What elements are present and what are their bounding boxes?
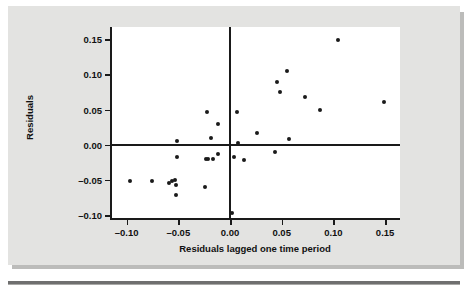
- y-tick-label: 0.00: [62, 139, 102, 150]
- y-tick-label: –0.05: [62, 174, 102, 185]
- scatter-point: [336, 38, 340, 42]
- x-axis-spine: [110, 218, 400, 220]
- scatter-point: [278, 90, 282, 94]
- y-tick-label: –0.10: [62, 210, 102, 221]
- x-tick-mark: [282, 220, 284, 225]
- scatter-point: [205, 110, 209, 114]
- scatter-point: [175, 139, 179, 143]
- x-tick-mark: [127, 220, 129, 225]
- scatter-plot-area: [110, 27, 400, 219]
- scatter-point: [232, 155, 236, 159]
- x-tick-label: –0.05: [166, 227, 190, 238]
- y-tick-mark: [105, 74, 110, 76]
- y-axis-spine: [110, 27, 112, 220]
- footer-rule-highlight: [8, 284, 460, 285]
- y-tick-label: 0.10: [62, 69, 102, 80]
- scatter-point: [216, 152, 220, 156]
- y-tick-label: 0.05: [62, 104, 102, 115]
- y-tick-mark: [105, 145, 110, 147]
- x-tick-label: 0.10: [324, 227, 343, 238]
- x-tick-mark: [385, 220, 387, 225]
- scatter-point: [303, 95, 307, 99]
- scatter-point: [174, 183, 178, 187]
- x-tick-label: 0.15: [376, 227, 395, 238]
- x-tick-mark: [178, 220, 180, 225]
- x-tick-label: –0.10: [115, 227, 139, 238]
- x-tick-label: 0.05: [272, 227, 291, 238]
- scatter-point: [382, 100, 386, 104]
- y-axis-label: Residuals: [24, 58, 35, 178]
- y-tick-mark: [105, 39, 110, 41]
- scatter-point: [211, 157, 215, 161]
- scatter-point: [206, 157, 210, 161]
- x-tick-label: 0.00: [221, 227, 240, 238]
- y-tick-label: 0.15: [62, 34, 102, 45]
- y-tick-mark: [105, 180, 110, 182]
- zero-horizontal-reference-line: [110, 144, 400, 146]
- scatter-point: [203, 185, 207, 189]
- y-tick-mark: [105, 110, 110, 112]
- zero-vertical-reference-line: [229, 27, 231, 220]
- scatter-point: [242, 158, 246, 162]
- scatter-point: [216, 122, 220, 126]
- scatter-point: [209, 136, 213, 140]
- scatter-point: [255, 131, 259, 135]
- figure-container: –0.10–0.050.000.050.100.15 0.150.100.050…: [0, 0, 474, 293]
- panel-shadow-bottom: [12, 265, 464, 269]
- x-axis-label: Residuals lagged one time period: [110, 243, 400, 254]
- scatter-point: [150, 179, 154, 183]
- x-tick-mark: [333, 220, 335, 225]
- scatter-point: [273, 150, 277, 154]
- scatter-point: [285, 69, 289, 73]
- scatter-point: [173, 178, 177, 182]
- scatter-point: [318, 108, 322, 112]
- panel-shadow-right: [460, 12, 464, 267]
- scatter-point: [175, 155, 179, 159]
- scatter-point: [287, 137, 291, 141]
- scatter-point: [128, 179, 132, 183]
- y-tick-mark: [105, 215, 110, 217]
- scatter-point: [174, 193, 178, 197]
- scatter-point: [275, 80, 279, 84]
- scatter-point: [235, 110, 239, 114]
- x-tick-mark: [230, 220, 232, 225]
- scatter-point: [230, 211, 234, 215]
